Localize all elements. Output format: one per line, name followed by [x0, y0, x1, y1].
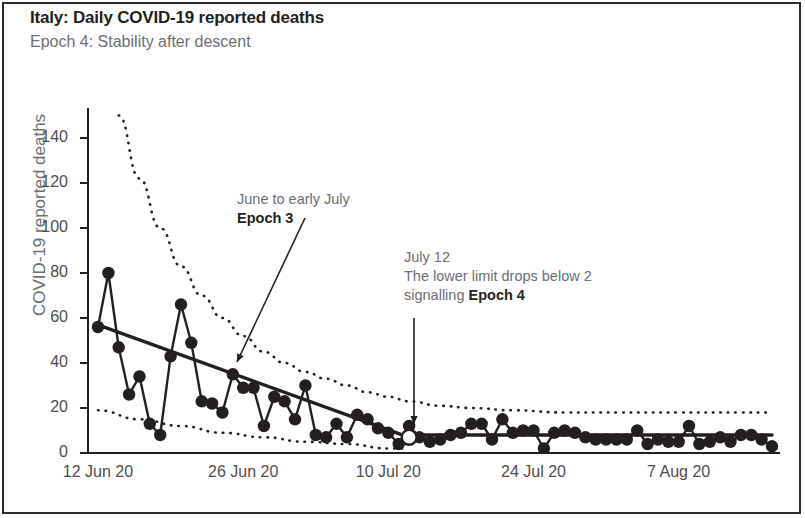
data-point-marker — [92, 321, 104, 333]
epoch-4-annotation-line1: July 12 — [404, 248, 592, 267]
data-point-marker — [175, 298, 187, 310]
data-point-marker — [424, 436, 436, 448]
data-point-marker — [133, 370, 145, 382]
data-point-marker — [227, 368, 239, 380]
data-point-marker — [258, 420, 270, 432]
data-point-marker — [548, 427, 560, 439]
data-point-marker — [299, 379, 311, 391]
data-point-marker — [652, 433, 664, 445]
data-point-marker — [154, 429, 166, 441]
data-point-marker — [330, 418, 342, 430]
chart-screenshot: Italy: Daily COVID-19 reported deaths Ep… — [0, 0, 805, 518]
epoch-4-transition-marker — [402, 430, 417, 445]
data-point-marker — [527, 424, 539, 436]
data-point-marker — [206, 397, 218, 409]
epoch-3-annotation: June to early July Epoch 3 — [237, 190, 350, 228]
data-point-marker — [766, 440, 778, 452]
data-point-marker — [310, 429, 322, 441]
data-point-marker — [444, 429, 456, 441]
epoch-3-annotation-line1: June to early July — [237, 190, 350, 209]
data-point-marker — [673, 436, 685, 448]
data-point-marker — [382, 427, 394, 439]
data-point-marker — [755, 433, 767, 445]
plot-canvas — [0, 0, 805, 518]
data-point-marker — [196, 395, 208, 407]
data-point-marker — [278, 395, 290, 407]
data-point-marker — [631, 424, 643, 436]
epoch-3-annotation-line2: Epoch 3 — [237, 209, 350, 228]
data-point-marker — [102, 267, 114, 279]
data-point-marker — [724, 436, 736, 448]
data-point-marker — [538, 442, 550, 454]
data-point-marker — [579, 431, 591, 443]
data-point-marker — [621, 433, 633, 445]
data-point-marker — [164, 350, 176, 362]
data-point-marker — [185, 337, 197, 349]
data-point-marker — [123, 388, 135, 400]
data-point-marker — [216, 406, 228, 418]
data-point-marker — [144, 418, 156, 430]
data-point-marker — [113, 341, 125, 353]
data-point-marker — [361, 413, 373, 425]
epoch-4-annotation-bold: Epoch 4 — [469, 287, 525, 303]
data-point-marker — [486, 433, 498, 445]
data-point-marker — [289, 413, 301, 425]
data-point-marker — [476, 418, 488, 430]
annotation-arrow-1 — [237, 218, 305, 362]
data-point-marker — [558, 424, 570, 436]
data-point-marker — [507, 427, 519, 439]
data-point-marker — [247, 382, 259, 394]
data-point-marker — [320, 431, 332, 443]
epoch-4-annotation-line3: signalling Epoch 4 — [404, 286, 592, 305]
data-point-marker — [693, 438, 705, 450]
data-point-marker — [455, 427, 467, 439]
data-point-marker — [341, 431, 353, 443]
epoch-4-annotation-prefix: signalling — [404, 287, 469, 303]
data-point-marker — [496, 413, 508, 425]
epoch-4-annotation: July 12 The lower limit drops below 2 si… — [404, 248, 592, 305]
epoch-4-annotation-line2: The lower limit drops below 2 — [404, 267, 592, 286]
data-point-marker — [683, 420, 695, 432]
